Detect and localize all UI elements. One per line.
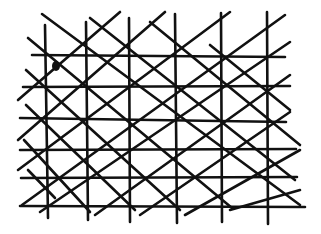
- lattice-diagram: [0, 0, 321, 234]
- horizontal-line: [20, 206, 305, 207]
- ink-marks: [52, 61, 60, 71]
- ink-blob-mark: [52, 61, 60, 71]
- vertical-line: [221, 13, 222, 222]
- horizontal-line: [23, 86, 290, 87]
